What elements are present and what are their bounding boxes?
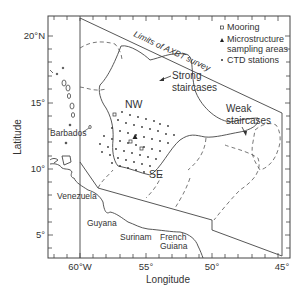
x-tick-label: 45° xyxy=(275,261,290,272)
venezuela-label: Venezuela xyxy=(57,191,97,201)
se-label: SE xyxy=(149,168,163,180)
y-tick-label: 15° xyxy=(31,97,46,108)
microstructure-legend-icon xyxy=(220,38,224,42)
x-tick-label: 55° xyxy=(139,261,154,272)
legend-microstructure-label-1: Microstructure xyxy=(227,34,284,44)
paria-peninsula xyxy=(50,159,58,164)
ctd-stations xyxy=(99,111,175,173)
strong-staircases-arrow xyxy=(159,76,171,81)
barbados-label: Barbados xyxy=(50,128,86,138)
french-guiana-label-2: Guiana xyxy=(160,241,188,251)
legend-microstructure-label-2: sampling areas xyxy=(227,44,289,54)
mooring-legend-icon xyxy=(221,26,224,29)
weak-staircases-boundary xyxy=(80,42,280,220)
nw-label: NW xyxy=(125,98,143,110)
trinidad-island xyxy=(62,156,71,165)
surinam-label: Surinam xyxy=(120,232,152,242)
x-tick-label: 60°W xyxy=(68,261,91,272)
legend-ctd-label: CTD stations xyxy=(227,55,280,65)
moorings xyxy=(113,113,143,150)
y-tick-label: 5° xyxy=(36,229,45,240)
legend-mooring-label: Mooring xyxy=(227,22,260,32)
x-tick-labels: 60°W 55° 50° 45° xyxy=(68,261,289,272)
ctd-legend-icon xyxy=(221,59,223,61)
y-tick-label: 10° xyxy=(31,163,46,174)
x-tick-label: 50° xyxy=(205,261,220,272)
strong-staircases-label-1: Strong xyxy=(172,70,201,81)
weak-staircases-label-1: Weak xyxy=(226,103,252,114)
guyana-label: Guyana xyxy=(87,218,117,228)
y-axis-title: Latitude xyxy=(12,119,23,155)
y-ticks xyxy=(48,36,290,248)
y-tick-label: 20°N xyxy=(24,30,45,41)
weak-staircases-label-2: staircases xyxy=(226,115,271,126)
axbt-limit-label: Limits of AXBT survey xyxy=(132,29,212,74)
map-figure: 60°W 55° 50° 45° 20°N 15° 10° 5° Longitu… xyxy=(0,0,304,293)
x-axis-title: Longitude xyxy=(146,274,190,285)
y-tick-labels: 20°N 15° 10° 5° xyxy=(24,30,45,240)
strong-staircases-label-2: staircases xyxy=(172,82,217,93)
legend: Mooring Microstructure sampling areas CT… xyxy=(220,22,289,65)
place-labels: Venezuela Guyana Surinam French Guiana xyxy=(57,191,188,251)
